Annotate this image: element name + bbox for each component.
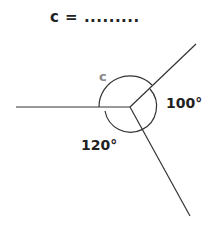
label-angle-120: 120°	[81, 137, 117, 153]
arc-angles-lower	[105, 89, 157, 132]
angle-diagram: c 100° 120°	[0, 0, 213, 227]
arc-angle-c	[99, 76, 152, 107]
label-angle-100: 100°	[166, 95, 202, 111]
label-angle-c: c	[99, 69, 107, 84]
ray-lower-right	[130, 107, 190, 216]
